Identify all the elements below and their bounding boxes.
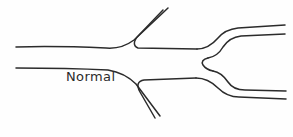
lower-fork-inner-line — [213, 71, 286, 91]
ascending-branch-inner-line — [134, 10, 197, 49]
upper-fork-outer-line — [197, 25, 285, 49]
normal-label: Normal — [66, 70, 115, 83]
lower-fork-outer-line — [196, 78, 286, 99]
upper-fork-inner-line — [208, 34, 285, 58]
vessel-diagram-figure: Normal — [0, 0, 293, 137]
vessel-diagram-svg — [0, 0, 293, 137]
fork-crotch-line — [202, 58, 213, 71]
